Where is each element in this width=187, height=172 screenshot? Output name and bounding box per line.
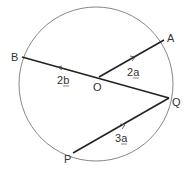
label-B: B — [11, 51, 18, 63]
svg-text:3a: 3a — [115, 132, 128, 144]
label-O: O — [93, 81, 102, 93]
label-Q: Q — [172, 96, 181, 108]
circle-vector-diagram: B A Q P O 2a 2b 3a — [0, 0, 187, 172]
label-P: P — [64, 153, 71, 165]
vector-label-OA: 2a — [127, 66, 140, 78]
vector-label-OB: 2b — [57, 74, 69, 86]
label-A: A — [167, 32, 175, 44]
line-PQ — [73, 98, 169, 153]
vector-label-PQ: 3a — [115, 132, 128, 144]
svg-text:2b: 2b — [57, 74, 69, 86]
svg-text:2a: 2a — [127, 66, 140, 78]
